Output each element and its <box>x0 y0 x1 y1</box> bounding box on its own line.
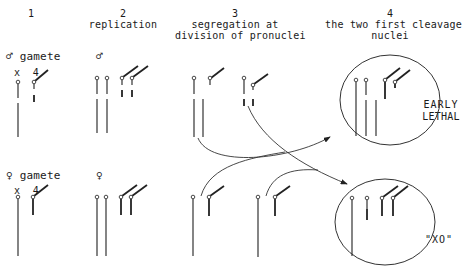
male-replicated-chromosomes <box>95 66 148 133</box>
male-segregation-chromosomes <box>192 68 268 137</box>
female-segregation-chromosomes <box>191 186 290 257</box>
female-gamete-chromosomes <box>16 185 48 256</box>
male-gamete-chromosomes <box>16 70 48 137</box>
early-lethal-nucleus <box>340 55 440 145</box>
female-replicated-chromosomes <box>95 185 147 256</box>
xo-nucleus <box>335 179 435 265</box>
diagram-canvas <box>0 0 466 277</box>
segregation-arrows <box>198 106 347 196</box>
